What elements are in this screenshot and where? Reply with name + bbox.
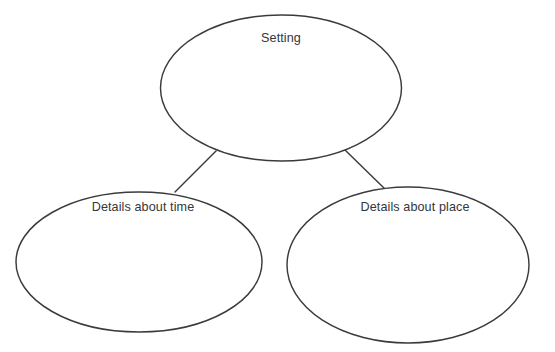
diagram-canvas-svg	[0, 0, 555, 352]
connector-setting-to-details-about-time	[175, 151, 216, 192]
node-label-details-about-time: Details about time	[92, 201, 195, 215]
node-label-details-about-place: Details about place	[360, 201, 469, 215]
concept-map-diagram: Setting Details about time Details about…	[0, 0, 555, 352]
node-label-setting: Setting	[261, 32, 301, 46]
connector-setting-to-details-about-place	[345, 150, 386, 190]
